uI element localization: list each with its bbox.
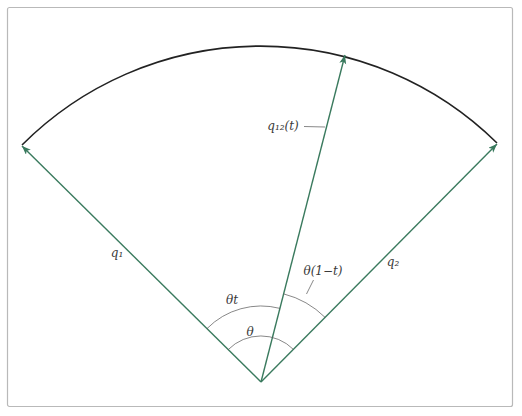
label-theta-t: θt xyxy=(226,294,238,306)
slerp-diagram xyxy=(0,0,522,416)
vector-q12 xyxy=(261,55,345,382)
label-q2: q₂ xyxy=(387,256,400,268)
leader-line-q12 xyxy=(304,127,325,128)
vector-q1 xyxy=(22,146,261,382)
figure-canvas: q₁ q₂ q₁₂(t) θt θ(1−t) θ xyxy=(0,0,522,416)
label-q12: q₁₂(t) xyxy=(267,120,299,132)
angle-arc-theta-t xyxy=(207,306,280,329)
vector-q2 xyxy=(261,144,497,382)
interpolation-arc xyxy=(22,46,497,145)
label-theta-one-minus-t: θ(1−t) xyxy=(303,265,342,277)
label-theta: θ xyxy=(246,326,253,338)
angle-arc-theta-1-t xyxy=(284,294,325,318)
label-q1: q₁ xyxy=(111,247,124,259)
leader-line-theta-1-t xyxy=(307,280,314,294)
angle-arc-theta xyxy=(228,336,293,350)
